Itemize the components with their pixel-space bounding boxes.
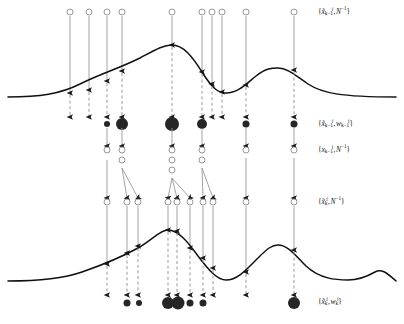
label-row5: {x̃ki,wki} [318, 296, 342, 306]
resampled-particle-circle [243, 147, 249, 153]
resampled-particle-circle [291, 147, 297, 153]
predicted-particle-circle [291, 199, 297, 205]
particle-open-circle [119, 9, 125, 15]
propagation-arrow [168, 178, 172, 198]
row4-open-circles [104, 199, 297, 205]
row5-dashed-down-arrows [107, 232, 294, 295]
row-labels: {x̃k−1i,N−1}{x̃k−1i,wk−1i}{xk−1i,N−1}{x̃… [318, 6, 353, 306]
predicted-particle-circle [210, 199, 216, 205]
lower-density-curve [8, 230, 396, 281]
resampled-particle-circle [169, 157, 175, 163]
predicted-particle-circle [243, 199, 249, 205]
resampled-particle-circle [169, 167, 175, 173]
weighted-particle-dot [291, 121, 298, 128]
particle-open-circle [86, 9, 92, 15]
weighted-particle-dot [104, 121, 110, 127]
particle-open-circle [219, 9, 225, 15]
predicted-particle-circle [187, 199, 193, 205]
row1-solid-down-arrows [70, 16, 294, 93]
particle-open-circle [67, 9, 73, 15]
predicted-particle-circle [174, 199, 180, 205]
propagation-arrow [202, 168, 203, 198]
propagation-arrow [202, 168, 213, 198]
weighted-particle-dot [288, 297, 300, 309]
row4-propagation-arrows [107, 158, 294, 198]
row4-solid-down-arrows [107, 206, 294, 272]
figure-canvas: {x̃k−1i,N−1}{x̃k−1i,wk−1i}{xk−1i,N−1}{x̃… [0, 0, 404, 324]
predicted-particle-circle [104, 199, 110, 205]
resampled-particle-circle [119, 157, 125, 163]
weighted-particle-dot [197, 119, 207, 129]
row3-open-circles [104, 147, 297, 173]
row2-filled-dots [104, 117, 298, 131]
label-row4: {x̃ki,N−1} [318, 196, 345, 206]
label-row2: {x̃k−1i,wk−1i} [318, 118, 353, 128]
weighted-particle-dot [187, 300, 194, 307]
particle-filter-diagram: {x̃k−1i,N−1}{x̃k−1i,wk−1i}{xk−1i,N−1}{x̃… [0, 0, 404, 324]
row5-filled-dots [124, 297, 301, 310]
particle-open-circle [243, 9, 249, 15]
particle-open-circle [291, 9, 297, 15]
row2-dashed-down-arrows [70, 47, 294, 117]
resampled-particle-circle [104, 147, 110, 153]
predicted-particle-circle [124, 199, 130, 205]
predicted-particle-circle [200, 199, 206, 205]
weighted-particle-dot [136, 300, 142, 306]
lower-density-curve-path [8, 230, 396, 281]
weighted-particle-dot [172, 297, 185, 310]
weighted-particle-dot [200, 300, 207, 307]
particle-open-circle [209, 9, 215, 15]
resampled-particle-circle [169, 147, 175, 153]
row3-resample-arrows [107, 128, 294, 146]
label-row1: {x̃k−1i,N−1} [318, 6, 350, 16]
resampled-particle-circle [199, 147, 205, 153]
weighted-particle-dot [243, 121, 250, 128]
predicted-particle-circle [165, 199, 171, 205]
particle-open-circle [199, 9, 205, 15]
particle-open-circle [169, 9, 175, 15]
resampled-particle-circle [119, 147, 125, 153]
weighted-particle-dot [124, 300, 131, 307]
particle-open-circle [104, 9, 110, 15]
resampled-particle-circle [199, 157, 205, 163]
predicted-particle-circle [135, 199, 141, 205]
row1-open-circles [67, 9, 297, 15]
label-row3: {xk−1i,N−1} [318, 144, 350, 154]
